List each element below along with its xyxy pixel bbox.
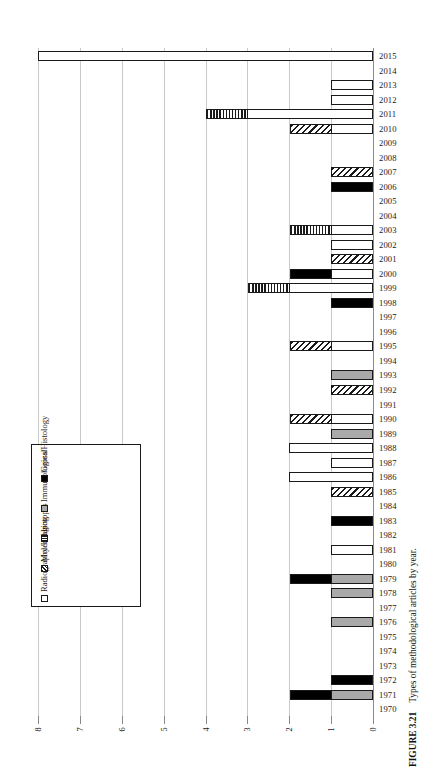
bar-segment-radiography[interactable] [331,124,373,134]
bar-stack-1972[interactable] [332,675,373,685]
chart-row [38,353,373,368]
bar-segment-immunological[interactable] [331,690,373,700]
x-tick-label-0: 0 [369,720,378,740]
chart-row [38,179,373,194]
bar-stack-2012[interactable] [332,95,373,105]
bar-segment-immunological[interactable] [331,617,373,627]
bar-stack-2002[interactable] [332,240,373,250]
bar-stack-2003[interactable] [291,225,373,235]
bar-segment-molecular[interactable] [290,414,332,424]
bar-segment-molecular[interactable] [290,124,332,134]
chart-row [38,222,373,237]
bar-stack-2007[interactable] [332,167,373,177]
x-tick-label-4: 4 [201,720,210,740]
bar-stack-1993[interactable] [332,370,373,380]
bar-stack-2011[interactable] [207,109,373,119]
chart-row [38,309,373,324]
bar-segment-isotopes[interactable] [290,225,332,235]
bar-stack-2010[interactable] [291,124,373,134]
bar-segment-radiography[interactable] [289,283,373,293]
bar-stack-1976[interactable] [332,617,373,627]
chart-row [38,426,373,441]
bar-stack-1985[interactable] [332,487,373,497]
bar-segment-molecular[interactable] [331,385,373,395]
chart-row [38,643,373,658]
chart-legend: Radiography/ImagingMolecularIsotopesImmu… [31,444,141,607]
legend-item-isotopes[interactable]: Isotopes [39,512,49,542]
chart-row [38,251,373,266]
bar-segment-isotopes[interactable] [206,109,248,119]
bar-segment-radiography[interactable] [331,545,373,555]
bar-stack-1986[interactable] [290,472,373,482]
legend-swatch-radiography-icon [41,595,48,602]
bar-segment-radiography[interactable] [331,341,373,351]
bar-segment-immunological[interactable] [331,588,373,598]
bar-segment-radiography[interactable] [289,443,373,453]
bar-segment-radiography[interactable] [331,80,373,90]
bar-stack-1988[interactable] [290,443,373,453]
bar-stack-1992[interactable] [332,385,373,395]
bar-stack-2006[interactable] [332,182,373,192]
bar-stack-2000[interactable] [291,269,373,279]
chart-row [38,658,373,673]
bar-segment-radiography[interactable] [331,414,373,424]
bar-segment-radiography[interactable] [331,95,373,105]
bar-segment-gross[interactable] [331,182,373,192]
bar-segment-molecular[interactable] [290,341,332,351]
bar-stack-1971[interactable] [291,690,373,700]
bar-segment-molecular[interactable] [331,167,373,177]
legend-swatch-molecular-icon [41,565,48,572]
bar-stack-1987[interactable] [332,458,373,468]
bar-segment-radiography[interactable] [247,109,373,119]
x-tick-label-2: 2 [285,720,294,740]
bar-segment-gross[interactable] [290,574,332,584]
bar-stack-1981[interactable] [332,545,373,555]
bar-segment-isotopes[interactable] [248,283,290,293]
chart-row [38,92,373,107]
bar-segment-immunological[interactable] [331,574,373,584]
bar-segment-gross[interactable] [331,516,373,526]
bar-segment-gross[interactable] [290,690,332,700]
bar-stack-1998[interactable] [332,298,373,308]
bar-segment-radiography[interactable] [331,458,373,468]
bar-segment-molecular[interactable] [331,487,373,497]
bar-segment-immunological[interactable] [331,370,373,380]
bar-segment-gross[interactable] [331,675,373,685]
bar-segment-molecular[interactable] [331,254,373,264]
chart-row [38,367,373,382]
bar-stack-2001[interactable] [332,254,373,264]
x-axis: 876543210 [38,716,373,746]
bar-stack-1983[interactable] [332,516,373,526]
bar-stack-1979[interactable] [291,574,373,584]
figure-caption-body: Types of methodological articles by year… [408,548,418,703]
chart-row [38,687,373,702]
bar-stack-1999[interactable] [249,283,373,293]
x-tick-label-8: 8 [34,720,43,740]
bar-segment-radiography[interactable] [38,51,373,61]
bar-stack-1990[interactable] [291,414,373,424]
legend-item-gross[interactable]: Gross/Histology [39,452,49,482]
bar-segment-immunological[interactable] [331,429,373,439]
bar-segment-radiography[interactable] [289,472,373,482]
chart-row [38,295,373,310]
bar-stack-1995[interactable] [291,341,373,351]
bar-stack-1978[interactable] [332,588,373,598]
bar-segment-radiography[interactable] [331,225,373,235]
figure-caption-label: FIGURE 3.21 [408,712,418,767]
bar-stack-2015[interactable] [39,51,373,61]
bar-segment-gross[interactable] [331,298,373,308]
chart-row [38,48,373,63]
legend-label-gross: Gross/Histology [39,416,49,472]
bar-segment-gross[interactable] [290,269,332,279]
legend-item-radiography[interactable]: Radiography/Imaging [39,572,49,602]
bar-segment-radiography[interactable] [331,240,373,250]
bar-stack-2013[interactable] [332,80,373,90]
legend-item-molecular[interactable]: Molecular [39,542,49,572]
legend-item-immunological[interactable]: Immunological [39,482,49,512]
legend-items-container: Radiography/ImagingMolecularIsotopesImmu… [32,445,142,608]
gridline-0 [373,48,374,716]
bar-segment-radiography[interactable] [331,269,373,279]
figure-container: 2015201420132012201120102009200820072006… [0,0,438,775]
bar-stack-1989[interactable] [332,429,373,439]
figure-caption-text: FIGURE 3.21Types of methodological artic… [408,548,418,767]
